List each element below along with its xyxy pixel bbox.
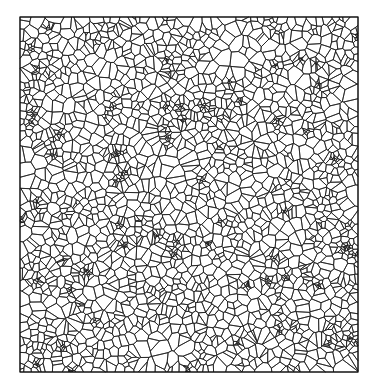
- voronoi-diagram: [0, 0, 378, 392]
- voronoi-cells: [20, 17, 358, 372]
- voronoi-cell-edges: [20, 17, 358, 372]
